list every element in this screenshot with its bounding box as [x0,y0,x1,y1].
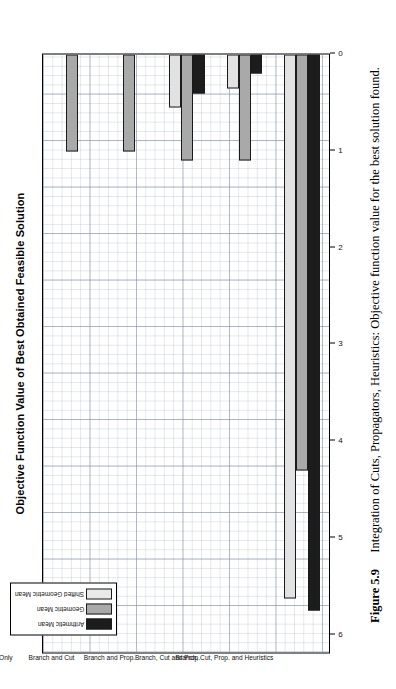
chart-title: Objective Function Value of Best Obtaine… [14,53,26,653]
value-tick-label: 4 [328,436,354,445]
legend-label: Geometric Mean [37,605,84,612]
bar-0-1 [66,54,78,151]
bar-4-2 [284,54,296,598]
bar-3-2 [227,54,239,88]
figure-caption-text: Integration of Cuts, Propagators, Heuris… [368,67,382,553]
legend-swatch-icon [86,588,112,599]
value-tick-label: 5 [328,532,354,541]
category-label: Branch, Cut, Prop. and Heuristics [150,654,300,661]
legend-swatch-icon [86,603,112,614]
bar-2-1 [181,54,193,160]
bar-4-0 [308,54,320,610]
chart-legend: Arithmetic Mean Geometric Mean Shifted G… [10,582,117,635]
figure-stage: Objective Function Value of Best Obtaine… [0,0,396,689]
legend-item: Arithmetic Mean [38,618,112,629]
value-tick-label: 0 [328,49,354,58]
bar-2-0 [193,54,205,93]
category-axis: Branch OnlyBranch and CutBranch and Prop… [42,653,330,689]
bar-2-2 [169,54,181,107]
legend-label: Shifted Geometric Mean [15,590,84,597]
legend-item: Shifted Geometric Mean [15,588,112,599]
value-axis: 0123456 [330,53,356,653]
figure-number: Figure 5.9 [368,569,382,623]
plot-area [42,53,330,653]
legend-swatch-icon [86,618,112,629]
bar-1-1 [123,54,135,151]
bar-3-0 [251,54,263,73]
value-tick-label: 3 [328,339,354,348]
figure-caption: Figure 5.9 Integration of Cuts, Propagat… [362,0,388,689]
value-tick-label: 6 [328,629,354,638]
value-tick-label: 2 [328,242,354,251]
bar-4-1 [296,54,308,470]
value-tick-label: 1 [328,145,354,154]
legend-item: Geometric Mean [37,603,112,614]
bar-3-1 [239,54,251,160]
legend-label: Arithmetic Mean [38,620,84,627]
plot-wrapper [42,53,330,653]
